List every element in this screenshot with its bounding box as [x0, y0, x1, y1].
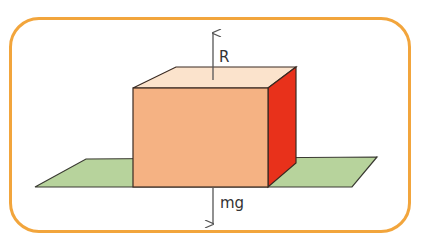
reaction-force-label: R — [219, 50, 229, 65]
block-front-face — [133, 88, 268, 187]
force-diagram — [0, 0, 424, 246]
weight-force-label: mg — [220, 196, 244, 211]
